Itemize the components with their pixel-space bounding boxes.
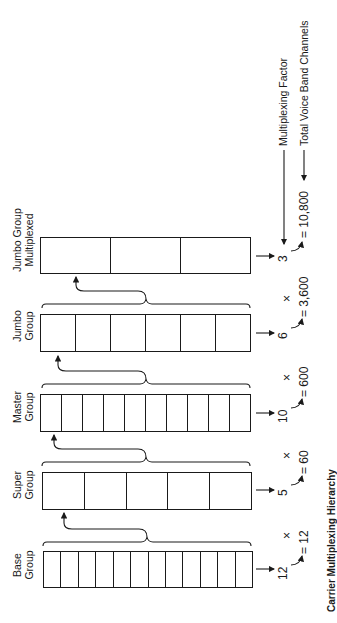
jumbo-group-multiplexed-box <box>40 237 251 274</box>
master-group-box <box>40 394 251 432</box>
channel-cell <box>167 473 209 509</box>
total-channels-result: = 60 <box>297 450 311 474</box>
channel-cell <box>113 552 130 587</box>
multiplexing-factor: 6 <box>276 332 290 339</box>
channel-cell <box>110 238 180 273</box>
channel-cell <box>60 552 77 587</box>
channel-cell <box>235 552 252 587</box>
channel-cell <box>182 552 199 587</box>
times-operator: × <box>280 295 294 302</box>
channel-cell <box>44 552 60 587</box>
super-group-box <box>42 472 252 510</box>
channel-cell <box>110 315 145 351</box>
channel-cell <box>126 473 168 509</box>
group-label: Jumbo Group Multiplexed <box>11 205 35 275</box>
channel-cell <box>217 552 234 587</box>
total-channels-result: = 600 <box>297 367 311 397</box>
channel-cell <box>148 552 165 587</box>
channel-cell <box>187 395 208 431</box>
channel-cell <box>165 552 182 587</box>
times-operator: × <box>280 452 294 459</box>
total-channels-result: = 12 <box>297 530 311 554</box>
channel-cell <box>215 315 250 351</box>
figure-caption: Carrier Multiplexing Hierarchy <box>326 469 337 612</box>
multiplexing-factor: 10 <box>276 410 290 423</box>
channel-cell <box>145 395 166 431</box>
channel-cell <box>61 395 82 431</box>
times-operator: × <box>280 532 294 539</box>
legend-multiplexing-factor: Multiplexing Factor <box>277 58 289 146</box>
total-channels-result: = 3,600 <box>297 277 311 317</box>
channel-cell <box>95 552 112 587</box>
channel-cell <box>208 395 229 431</box>
group-label: Base Group <box>11 543 35 587</box>
times-operator: × <box>280 374 294 381</box>
channel-cell <box>41 395 61 431</box>
total-channels-result: = 10,800 <box>297 191 311 238</box>
channel-cell <box>180 315 215 351</box>
jumbo-group-box <box>40 314 251 352</box>
channel-cell <box>180 238 250 273</box>
multiplexing-factor: 5 <box>276 489 290 496</box>
group-label: Jumbo Group <box>11 304 35 348</box>
channel-cell <box>130 552 147 587</box>
group-label: Super Group <box>11 463 35 507</box>
channel-cell <box>124 395 145 431</box>
channel-cell <box>41 315 75 351</box>
channel-cell <box>82 395 103 431</box>
channel-cell <box>166 395 187 431</box>
channel-cell <box>200 552 217 587</box>
channel-cell <box>229 395 250 431</box>
channel-cell <box>43 473 84 509</box>
channel-cell <box>84 473 126 509</box>
channel-cell <box>78 552 95 587</box>
channel-cell <box>41 238 110 273</box>
channel-cell <box>145 315 180 351</box>
channel-cell <box>209 473 251 509</box>
multiplexing-factor: 12 <box>276 567 290 580</box>
channel-cell <box>103 395 124 431</box>
channel-cell <box>75 315 110 351</box>
group-label: Master Group <box>11 385 35 429</box>
legend-total-channels: Total Voice Band Channels <box>298 20 310 146</box>
multiplexing-factor: 3 <box>276 255 290 262</box>
base-group-box <box>43 551 253 588</box>
